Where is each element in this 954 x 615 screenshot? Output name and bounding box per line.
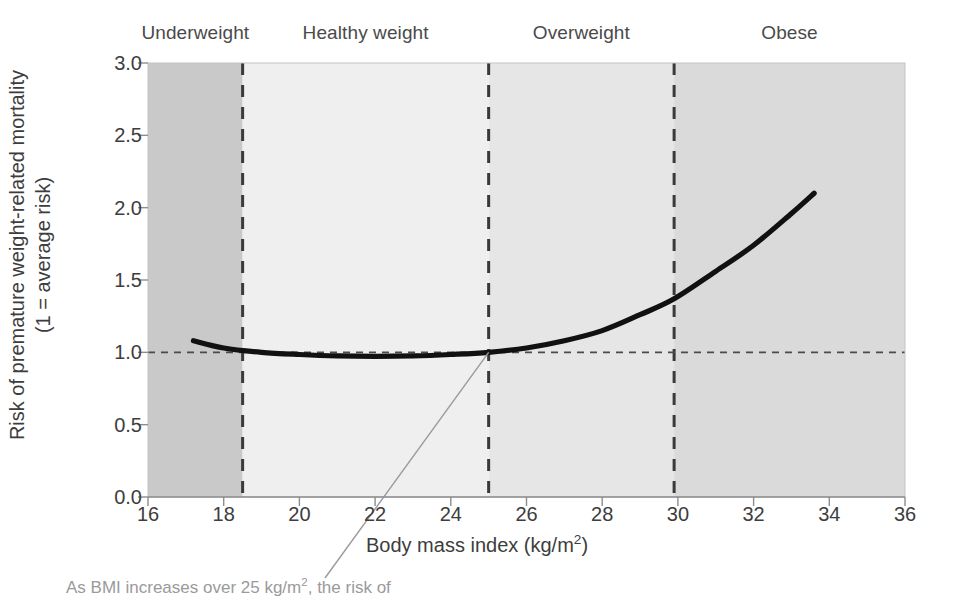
band-label-healthy-weight: Healthy weight bbox=[256, 22, 476, 44]
y-tick-label-1.0: 1.0 bbox=[98, 341, 142, 364]
x-tick-label-32: 32 bbox=[732, 503, 776, 526]
x-tick-label-18: 18 bbox=[202, 503, 246, 526]
annotation-caption-tail: , the risk of bbox=[308, 578, 391, 597]
y-tick-label-0.5: 0.5 bbox=[98, 413, 142, 436]
x-axis-title-text: Body mass index (kg/m bbox=[366, 534, 574, 556]
x-tick-label-22: 22 bbox=[353, 503, 397, 526]
x-tick-label-26: 26 bbox=[505, 503, 549, 526]
annotation-caption: As BMI increases over 25 kg/m2, the risk… bbox=[66, 578, 391, 598]
band-obese bbox=[674, 63, 905, 497]
x-tick-label-24: 24 bbox=[429, 503, 473, 526]
x-axis-title: Body mass index (kg/m2) bbox=[0, 534, 954, 557]
x-tick-label-36: 36 bbox=[883, 503, 927, 526]
x-axis-title-tail: ) bbox=[581, 534, 588, 556]
x-tick-label-16: 16 bbox=[126, 503, 170, 526]
band-overweight bbox=[489, 63, 674, 497]
y-tick-label-2.0: 2.0 bbox=[98, 196, 142, 219]
x-tick-label-34: 34 bbox=[807, 503, 851, 526]
y-axis-title-line-2: (1 = average risk) bbox=[30, 0, 56, 515]
x-tick-label-30: 30 bbox=[656, 503, 700, 526]
x-tick-label-20: 20 bbox=[277, 503, 321, 526]
band-label-overweight: Overweight bbox=[471, 22, 691, 44]
band-underweight bbox=[148, 63, 243, 497]
y-tick-label-2.5: 2.5 bbox=[98, 124, 142, 147]
y-axis-title-line-1: Risk of premature weight-related mortali… bbox=[4, 0, 30, 515]
bmi-mortality-risk-chart: UnderweightHealthy weightOverweightObese… bbox=[0, 0, 954, 615]
band-healthy-weight bbox=[243, 63, 489, 497]
x-axis-tick-labels: 1618202224262830323436 bbox=[0, 503, 954, 533]
y-tick-label-1.5: 1.5 bbox=[98, 269, 142, 292]
x-tick-label-28: 28 bbox=[580, 503, 624, 526]
y-axis-title: Risk of premature weight-related mortali… bbox=[4, 0, 64, 515]
y-tick-label-3.0: 3.0 bbox=[98, 52, 142, 75]
annotation-caption-text: As BMI increases over 25 kg/m bbox=[66, 578, 301, 597]
band-label-obese: Obese bbox=[680, 22, 900, 44]
category-bands bbox=[148, 63, 905, 497]
